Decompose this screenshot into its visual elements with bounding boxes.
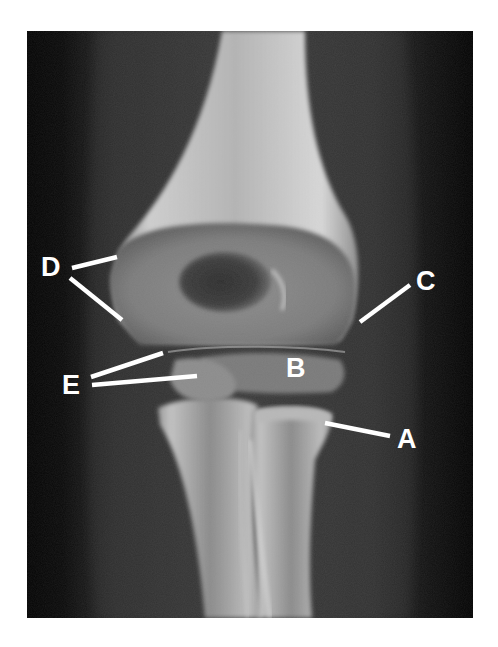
label-e: E (62, 372, 80, 399)
label-d: D (41, 254, 61, 281)
label-c: C (416, 268, 436, 295)
label-b: B (286, 355, 306, 382)
elbow-xray-image (27, 31, 473, 618)
xray-anatomy (27, 31, 473, 618)
label-a: A (397, 426, 417, 453)
